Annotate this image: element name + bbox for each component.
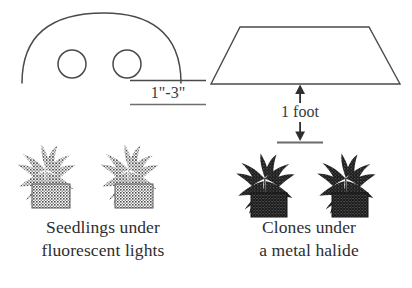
metal-halide-fixture-reflector bbox=[211, 27, 400, 84]
clone-plant-2 bbox=[317, 153, 375, 217]
clone-plant-1 bbox=[236, 153, 294, 217]
caption-seedlings-line1: Seedlings under bbox=[0, 216, 206, 239]
distance-one-foot-label: 1 foot bbox=[248, 103, 352, 121]
seedling-pot-2 bbox=[115, 184, 153, 208]
caption-clones-line1: Clones under bbox=[206, 216, 412, 239]
fluorescent-fixture-dome bbox=[22, 13, 181, 83]
caption-seedlings: Seedlings under fluorescent lights bbox=[0, 216, 206, 262]
clone-pot-2 bbox=[332, 193, 368, 217]
fluorescent-bulb-1 bbox=[58, 50, 86, 78]
caption-seedlings-line2: fluorescent lights bbox=[0, 239, 206, 262]
seedling-plant-2 bbox=[100, 144, 158, 208]
fluorescent-bulb-2 bbox=[113, 50, 141, 78]
caption-clones-line2: a metal halide bbox=[206, 239, 412, 262]
distance-one-to-three-inches-label: 1"-3" bbox=[118, 84, 218, 102]
clone-pot-1 bbox=[251, 193, 287, 217]
caption-clones: Clones under a metal halide bbox=[206, 216, 412, 262]
seedling-plant-1 bbox=[17, 144, 75, 208]
lighting-distance-diagram: 1"-3" 1 foot Seedlings under fluorescent… bbox=[0, 0, 412, 288]
seedling-pot-1 bbox=[32, 184, 70, 208]
